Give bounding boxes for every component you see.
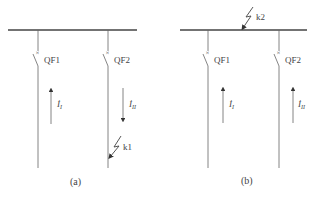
fault-label: k1 (123, 142, 132, 152)
breaker-cross-icon: × (206, 49, 210, 57)
diagram-canvas: × QF1 İI × QF2 İII k1 k2 (0, 0, 314, 203)
panel-a-caption: (a) (70, 176, 81, 187)
current-label: İII (128, 99, 137, 110)
current-label: İII (297, 99, 306, 110)
feeder-a-qf1: × QF1 İI (33, 30, 63, 168)
fault-k2: k2 (243, 7, 265, 28)
current-label: İI (228, 99, 235, 110)
breaker-cross-icon: × (277, 49, 281, 57)
breaker-cross-icon: × (106, 49, 110, 57)
feeder-b-qf1: × QF1 İI (203, 30, 235, 168)
breaker-label: QF1 (44, 55, 60, 65)
panel-b-caption: (b) (241, 175, 253, 186)
current-label: İI (56, 99, 63, 110)
lightning-fault-icon (110, 136, 121, 157)
breaker-label: QF2 (285, 55, 301, 65)
breaker-cross-icon: × (36, 49, 40, 57)
breaker-label: QF1 (214, 55, 230, 65)
breaker-label: QF2 (114, 55, 130, 65)
lightning-fault-icon (243, 7, 253, 28)
feeder-b-qf2: × QF2 İII (274, 30, 306, 168)
panel-a: × QF1 İI × QF2 İII k1 (8, 30, 137, 168)
panel-b: k2 × QF1 İI × QF2 İII (180, 7, 307, 168)
fault-label: k2 (256, 12, 265, 22)
fault-k1: k1 (110, 136, 132, 157)
